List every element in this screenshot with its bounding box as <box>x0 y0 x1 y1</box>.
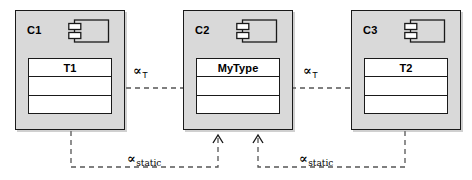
class-compartment-name: T1 <box>29 59 111 77</box>
edge-subscript: static <box>308 158 334 168</box>
class-compartment-operations <box>197 96 279 113</box>
class-box-mytype[interactable]: MyType <box>196 58 280 114</box>
class-compartment-name: T2 <box>365 59 447 77</box>
proportional-symbol: ∝ <box>127 151 136 166</box>
uml-component-icon <box>404 19 446 45</box>
component-c2-label: C2 <box>195 24 209 36</box>
proportional-symbol: ∝ <box>303 63 312 78</box>
uml-component-icon <box>236 19 278 45</box>
edge-subscript: static <box>136 158 162 168</box>
edge-subscript: T <box>312 70 318 80</box>
class-name-t1: T1 <box>63 62 76 74</box>
uml-component-icon <box>68 19 110 45</box>
proportional-symbol: ∝ <box>133 63 142 78</box>
class-name-t2: T2 <box>399 62 412 74</box>
component-c3-label: C3 <box>363 24 377 36</box>
edge-label-t-right: ∝T <box>303 62 318 80</box>
class-compartment-operations <box>29 96 111 113</box>
class-compartment-attributes <box>365 77 447 95</box>
edge-label-static-right: ∝static <box>299 150 333 168</box>
class-compartment-attributes <box>29 77 111 95</box>
class-name-mytype: MyType <box>218 62 259 74</box>
edge-label-t-left: ∝T <box>133 62 148 80</box>
proportional-symbol: ∝ <box>299 151 308 166</box>
class-compartment-name: MyType <box>197 59 279 77</box>
edge-label-static-left: ∝static <box>127 150 161 168</box>
component-c1-label: C1 <box>27 24 41 36</box>
class-box-t2[interactable]: T2 <box>364 58 448 114</box>
class-compartment-operations <box>365 96 447 113</box>
edge-subscript: T <box>142 70 148 80</box>
class-box-t1[interactable]: T1 <box>28 58 112 114</box>
uml-component-diagram: C1 T1 C2 MyType C3 T2 <box>0 0 472 180</box>
class-compartment-attributes <box>197 77 279 95</box>
